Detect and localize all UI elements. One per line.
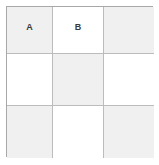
grid-cell-r1c3[interactable] xyxy=(104,7,154,54)
grid-cell-r3c2[interactable] xyxy=(53,106,104,158)
grid-cell-r2c3[interactable] xyxy=(104,54,154,106)
grid-cell-label-b: B xyxy=(53,23,103,32)
grid-cell-r3c3[interactable] xyxy=(104,106,154,158)
grid-cell-r2c2[interactable] xyxy=(53,54,104,106)
shaded-grid-diagram: A B xyxy=(6,6,153,157)
grid-cell-label-a: A xyxy=(7,23,52,32)
grid-cell-r1c1[interactable]: A xyxy=(7,7,53,54)
grid-cell-r3c1[interactable] xyxy=(7,106,53,158)
grid-cell-r1c2[interactable]: B xyxy=(53,7,104,54)
grid-cell-r2c1[interactable] xyxy=(7,54,53,106)
